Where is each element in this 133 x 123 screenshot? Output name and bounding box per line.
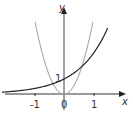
y-axis-label: y bbox=[58, 2, 66, 13]
function-plot: y x -1 0 1 1 bbox=[0, 0, 133, 123]
x-tick-label-neg1: -1 bbox=[30, 99, 40, 110]
x-axis-label: x bbox=[121, 96, 128, 107]
y-tick-label-1: 1 bbox=[55, 73, 61, 84]
x-tick-label-1: 1 bbox=[91, 99, 97, 110]
x-tick-label-0: 0 bbox=[61, 99, 67, 110]
